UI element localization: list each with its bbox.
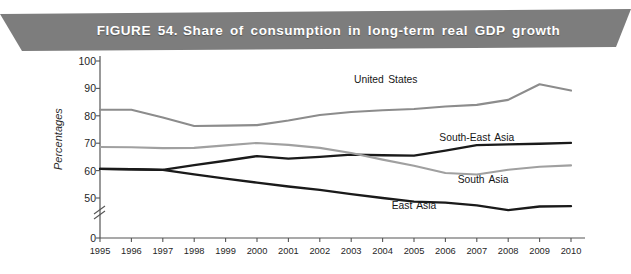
figure-container: FIGURE 54. Share of consumption in long-…	[0, 0, 631, 274]
series-line-united-states	[100, 84, 571, 126]
figure-caption: FIGURE 54. Share of consumption in long-…	[0, 9, 631, 51]
series-label-east-asia: East Asia	[392, 199, 437, 210]
figure-banner: FIGURE 54. Share of consumption in long-…	[0, 9, 631, 51]
figure-number: FIGURE 54.	[97, 23, 178, 38]
series-line-south-east-asia	[100, 143, 571, 170]
chart-plot-area: Percentages 10090807060500 1995199619971…	[0, 50, 631, 274]
chart-canvas	[0, 50, 631, 274]
series-label-south-asia: South Asia	[458, 174, 509, 185]
figure-title: Share of consumption in long-term real G…	[183, 23, 560, 38]
series-label-united-states: United States	[354, 73, 417, 84]
series-label-south-east-asia: South-East Asia	[439, 131, 514, 142]
